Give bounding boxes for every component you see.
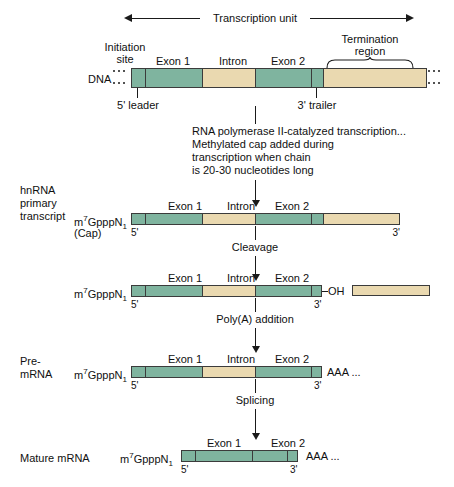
cleaved-five-prime-label: 5' — [131, 299, 138, 311]
hnrna-segment-exon-1 — [145, 214, 202, 224]
five-leader-pointer — [137, 88, 138, 98]
mature-exon1-label: Exon 1 — [194, 437, 254, 449]
connector-hnrna-to-cleavage — [255, 226, 256, 240]
premrna-segment-intron — [202, 367, 255, 377]
cleaved-cap-gpppn: GpppN — [88, 288, 123, 300]
transcription-unit-arrow-left — [124, 14, 132, 22]
premrna-divider-2 — [202, 367, 203, 377]
dna-exon2-label: Exon 2 — [258, 55, 318, 67]
mature-segment-exon-1 — [195, 451, 252, 461]
premrna-polya-label: AAA ... — [327, 366, 361, 378]
hnrna-segment-3-utr — [311, 214, 323, 224]
hnrna-divider-3 — [255, 214, 256, 224]
three-trailer-pointer — [316, 88, 317, 98]
premrna-segment-exon-2 — [255, 367, 311, 377]
mature-exon2-label: Exon 2 — [258, 437, 318, 449]
cleaved-segment-exon-2 — [255, 286, 311, 296]
mature-cap-gpppn: GpppN — [134, 453, 169, 465]
transcription-step-line2: Methylated cap added during — [192, 138, 334, 150]
transcription-step-line1: RNA polymerase II-catalyzed transcriptio… — [192, 125, 406, 137]
cleaved-oh-label: OH — [328, 285, 345, 297]
dna-segment-termination-region — [323, 69, 426, 87]
mature-divider-1 — [195, 451, 196, 461]
hnrna-segment-3-tail — [323, 214, 399, 224]
cleaved-cap-m: m — [74, 288, 83, 300]
mature-five-prime-label: 5' — [181, 464, 188, 476]
premrna-cap-label: m7GpppN1 — [74, 366, 127, 386]
cleaved-divider-1 — [145, 286, 146, 296]
premrna-divider-1 — [145, 367, 146, 377]
transcription-unit-line-right — [310, 18, 406, 19]
three-trailer-label: 3' trailer — [286, 99, 348, 111]
premrna-divider-4 — [311, 367, 312, 377]
dna-segment-3-trailer — [311, 69, 323, 87]
hnrna-cap-m: m — [74, 216, 83, 228]
cleaved-segment-intron — [202, 286, 255, 296]
dna-intron-label: Intron — [203, 55, 263, 67]
premrna-cap-m: m — [74, 369, 83, 381]
dna-divider-leader-exon1 — [145, 69, 146, 87]
dna-divider-intron-exon2 — [255, 69, 256, 87]
cleaved-divider-4 — [311, 286, 312, 296]
transcription-step-line3: transcription when chain — [192, 151, 311, 163]
mature-polya-label: AAA ... — [306, 450, 340, 462]
premrna-three-prime-label: 3' — [314, 380, 321, 392]
arrow-polya-to-premrna — [252, 346, 260, 353]
cleaved-downstream-fragment — [352, 285, 430, 296]
premrna-cap-subscript: 1 — [122, 375, 126, 384]
dna-segment-intron — [202, 69, 255, 87]
dna-exon1-label: Exon 1 — [143, 55, 203, 67]
hnrna-divider-5 — [323, 214, 324, 224]
premrna-segment-3-utr — [311, 367, 321, 377]
dna-segment-exon-1 — [145, 69, 202, 87]
cleaved-exon2-label: Exon 2 — [262, 272, 322, 284]
premrna-cap-gpppn: GpppN — [88, 369, 123, 381]
premrna-divider-3 — [255, 367, 256, 377]
hnrna-row-label-line2: primary — [20, 197, 57, 209]
mature-bar — [181, 450, 298, 462]
mature-segment-5-utr — [182, 451, 195, 461]
premrna-segment-5-utr — [132, 367, 145, 377]
polya-step-label: Poly(A) addition — [200, 313, 310, 325]
mature-row-label: Mature mRNA — [20, 452, 90, 464]
hnrna-cap-gpppn: GpppN — [88, 216, 123, 228]
mature-cap-label: m7GpppN1 — [120, 450, 173, 470]
cleaved-divider-3 — [255, 286, 256, 296]
cleaved-three-prime-label: 3' — [314, 299, 321, 311]
transcription-unit-label: Transcription unit — [200, 12, 310, 24]
cleaved-segment-exon-1 — [145, 286, 202, 296]
mature-segment-exon-2 — [252, 451, 287, 461]
dna-right-continuation-dots — [428, 68, 444, 88]
cleaved-segment-3-utr — [311, 286, 321, 296]
splicing-step-label: Splicing — [212, 394, 298, 406]
mature-segment-3-utr — [287, 451, 297, 461]
dna-bar — [131, 68, 427, 88]
cleaved-divider-2 — [202, 286, 203, 296]
transcription-unit-line-left — [132, 18, 200, 19]
termination-region-label-line2: region — [320, 45, 420, 57]
hnrna-exon2-label: Exon 2 — [262, 200, 322, 212]
premrna-five-prime-label: 5' — [131, 380, 138, 392]
dna-segment-5-leader — [132, 69, 145, 87]
dna-segment-exon-2 — [255, 69, 311, 87]
figure-canvas: Transcription unit Initiation site Termi… — [0, 0, 454, 487]
dna-divider-trailer-term — [323, 69, 324, 87]
cleaved-cap-subscript: 1 — [122, 294, 126, 303]
premrna-bar — [131, 366, 322, 378]
connector-premrna-to-splicing — [255, 379, 256, 393]
transcription-step-line4: is 20-30 nucleotides long — [192, 164, 314, 176]
hnrna-cap-subscript: 1 — [122, 222, 126, 231]
premrna-row-label-line1: Pre- — [20, 355, 41, 367]
hnrna-row-label-line3: transcript — [20, 210, 65, 222]
hnrna-five-prime-label: 5' — [131, 227, 138, 239]
hnrna-segment-exon-2 — [255, 214, 311, 224]
hnrna-cap-note: (Cap) — [74, 227, 102, 239]
hnrna-exon1-label: Exon 1 — [155, 200, 215, 212]
cleaved-segment-5-utr — [132, 286, 145, 296]
connector-dna-to-transcription — [255, 106, 256, 124]
hnrna-divider-1 — [145, 214, 146, 224]
dna-left-continuation-dots — [113, 68, 129, 88]
connector-cleaved-to-polya — [255, 298, 256, 312]
mature-divider-3 — [287, 451, 288, 461]
cleavage-step-label: Cleavage — [210, 241, 300, 253]
